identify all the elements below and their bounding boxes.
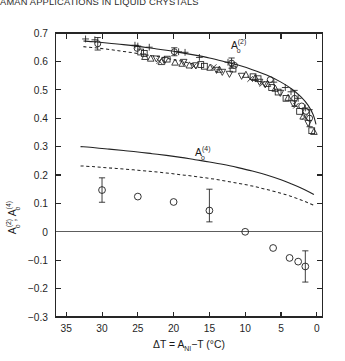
y-tick-label: 0.4 [34,113,48,124]
data-marker [201,63,207,69]
y-tick-label: 0.1 [34,198,48,209]
figure-page: AMAN APPLICATIONS IN LIQUID CRYSTALS 0.7… [0,0,345,361]
data-marker [270,245,277,252]
data-series [82,36,309,112]
data-marker [146,44,153,51]
data-marker [182,49,189,56]
tick-labels: 0.70.60.50.40.30.20.10−0.1−0.2−0.3353025… [28,28,320,334]
x-tick-label: 25 [132,323,144,334]
svg-text:A(2)o, A(4)o: A(2)o, A(4)o [5,201,21,234]
annotation-a0-2: A(2)o [231,38,246,54]
y-tick-label: 0 [42,227,48,238]
data-marker [207,64,214,70]
plot-border [56,33,323,317]
data-marker [288,88,295,95]
data-marker [286,255,293,262]
y-tick-label: −0.2 [28,283,48,294]
scatter-plot-svg: 0.70.60.50.40.30.20.10−0.1−0.2−0.3353025… [0,0,345,361]
data-series [99,178,309,282]
x-axis-title: ΔT = ANI−T (°C) [153,339,225,352]
y-tick-label: 0.5 [34,85,48,96]
y-tick-label: 0.7 [34,28,48,39]
y-axis-title: A(2)o, A(4)o [5,201,21,234]
chart-figure: 0.70.60.50.40.30.20.10−0.1−0.2−0.3353025… [0,0,345,361]
plot-frame [56,33,323,317]
theory-curve [81,166,314,205]
axis-titles: ΔT = ANI−T (°C)A(2)o, A(4)o [5,201,225,352]
y-tick-label: −0.1 [28,255,48,266]
x-tick-label: 10 [240,323,252,334]
data-marker [295,258,302,265]
y-tick-label: 0.2 [34,170,48,181]
y-tick-label: 0.3 [34,141,48,152]
x-tick-label: 20 [168,323,180,334]
error-bar [99,178,105,202]
annotation-a0-4: A(4)o [195,145,210,161]
x-tick-label: 30 [96,323,108,334]
data-points [82,36,317,283]
x-tick-label: 35 [61,323,73,334]
error-bar [206,189,212,222]
x-tick-label: 15 [204,323,216,334]
data-marker [170,199,177,206]
x-tick-label: 5 [278,323,284,334]
x-tick-label: 0 [314,323,320,334]
y-tick-label: −0.3 [28,312,48,323]
error-bar [302,251,308,282]
data-marker [134,193,141,200]
data-marker [303,108,309,114]
theory-curve [83,41,316,125]
y-tick-label: 0.6 [34,56,48,67]
